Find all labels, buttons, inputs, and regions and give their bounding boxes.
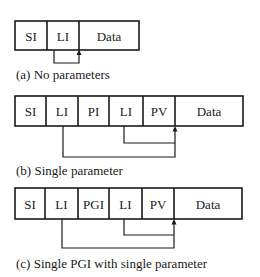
panel-b-field-data: Data [197,105,222,118]
panel-c-field-si: SI [24,197,36,210]
panel-a-caption: (a) No parameters [16,68,110,81]
panel-b-arrowhead-icon [173,126,178,132]
pdu-format-diagram: SI LI Data (a) No parameters SI LI PI LI… [0,0,260,277]
panel-c-field-li-1: LI [55,197,67,210]
panel-b-field-pi: PI [88,105,100,118]
panel-b-caption: (b) Single parameter [16,164,123,177]
panel-b-field-li-1: LI [56,105,68,118]
panel-b-pointers [63,126,175,157]
panel-a-field-data: Data [97,30,122,43]
panel-b-field-pv: PV [151,105,168,118]
panel-c-field-pv: PV [150,197,167,210]
panel-c-arrowhead-icon [172,219,177,225]
panel-a-field-si: SI [25,30,37,43]
panel-c-field-pgi: PGI [83,197,104,210]
panel-c-caption: (c) Single PGI with single parameter [16,257,207,270]
panel-a-field-li: LI [57,30,69,43]
panel-c-pointers [62,219,174,248]
panel-b-field-li-2: LI [120,105,132,118]
panel-c-field-data: Data [196,197,221,210]
panel-a-pointer [54,50,79,63]
panel-c-field-li-2: LI [119,197,131,210]
diagram-lines [0,0,260,277]
panel-b-field-si: SI [25,105,37,118]
